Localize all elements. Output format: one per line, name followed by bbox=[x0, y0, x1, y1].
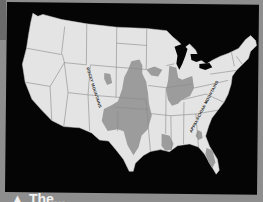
figure-caption: ▲ The... bbox=[12, 192, 65, 202]
triangle-marker-icon: ▲ bbox=[12, 192, 23, 202]
caption-text: The... bbox=[29, 192, 66, 202]
us-map: ROCKY MOUNTAINS APPALACHIAN MOUNTAINS bbox=[5, 2, 259, 195]
us-map-svg: ROCKY MOUNTAINS APPALACHIAN MOUNTAINS bbox=[5, 2, 259, 195]
page-edge bbox=[0, 0, 6, 40]
